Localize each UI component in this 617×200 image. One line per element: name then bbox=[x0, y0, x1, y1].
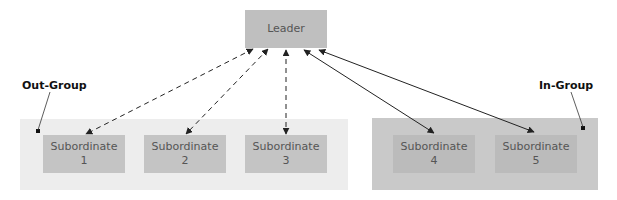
out-group-pointer-line bbox=[38, 92, 50, 130]
relationship-arrows bbox=[0, 0, 617, 200]
leader-subordinate-4-arrow bbox=[304, 50, 434, 133]
leader-subordinate-1-arrow bbox=[86, 49, 253, 134]
leader-subordinate-5-arrow bbox=[319, 50, 534, 132]
in-group-pointer-line bbox=[571, 92, 583, 127]
